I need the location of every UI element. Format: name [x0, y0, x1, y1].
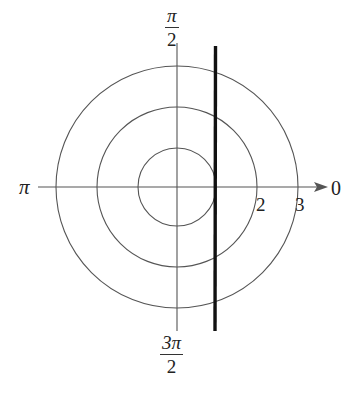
numerator: π	[165, 6, 179, 27]
label-radius-2: 2	[256, 195, 266, 214]
label-3pi-over-2: 3π 2	[160, 333, 183, 376]
denominator: 2	[167, 355, 177, 376]
label-pi-over-2: π 2	[165, 6, 179, 49]
label-pi: π	[19, 177, 30, 198]
graph-line	[215, 46, 216, 331]
label-zero: 0	[331, 178, 341, 198]
numerator: 3π	[160, 333, 183, 354]
label-radius-3: 3	[295, 195, 305, 214]
denominator: 2	[167, 28, 177, 49]
